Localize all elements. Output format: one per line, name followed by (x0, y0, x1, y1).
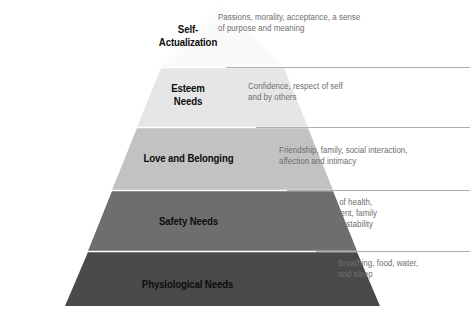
tier-description-esteem: Confidence, respect of self and by other… (248, 81, 416, 103)
maslow-hierarchy-diagram: Self- Actualization Esteem Needs Love an… (0, 0, 475, 319)
tier-description-love-and-belonging: Friendship, family, social interaction, … (279, 145, 452, 167)
tier-label-safety-needs: Safety Needs (103, 215, 273, 228)
tier-label-physiological-needs: Physiological Needs (89, 278, 287, 291)
tier-label-love-and-belonging: Love and Belonging (103, 152, 273, 165)
tier-label-esteem: Esteem Needs (133, 82, 243, 107)
tier-description-physiological: Breathing, food, water, and sleep (338, 258, 472, 280)
tier-description-safety: Security of health, employment, family a… (308, 197, 462, 231)
tier-description-self-actualization: Passions, morality, acceptance, a sense … (218, 12, 386, 34)
